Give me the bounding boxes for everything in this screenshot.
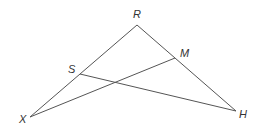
point-label-m: M	[180, 47, 190, 59]
segment-xm	[30, 58, 175, 117]
vertex-label-h: H	[239, 108, 247, 120]
point-label-s: S	[68, 63, 76, 75]
diagram-svg: R X H S M	[0, 0, 262, 138]
vertex-label-r: R	[133, 8, 141, 20]
segment-rx	[30, 25, 137, 117]
segment-rh	[137, 25, 236, 111]
segment-sh	[80, 74, 236, 111]
triangle-diagram: R X H S M	[0, 0, 262, 138]
vertex-label-x: X	[18, 113, 27, 125]
